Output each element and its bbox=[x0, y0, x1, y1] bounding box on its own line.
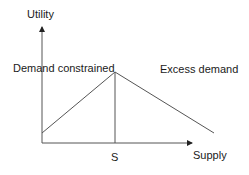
x-axis-label: Supply bbox=[193, 150, 227, 161]
excess-demand-line bbox=[115, 72, 214, 133]
utility-supply-diagram: Utility Demand constrained Excess demand… bbox=[0, 0, 249, 175]
s-marker-label: S bbox=[111, 152, 118, 163]
y-axis-label: Utility bbox=[27, 9, 54, 20]
demand-constrained-label: Demand constrained bbox=[13, 63, 115, 74]
demand-constrained-line bbox=[42, 72, 115, 133]
excess-demand-label: Excess demand bbox=[160, 64, 238, 75]
